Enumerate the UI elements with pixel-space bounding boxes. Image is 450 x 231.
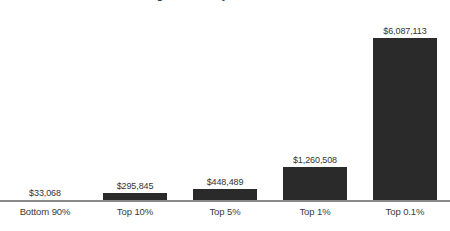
bar-value-label: $33,068: [29, 188, 61, 199]
bar-group-top-5: $448,489: [180, 0, 270, 201]
bar-value-label: $295,845: [117, 181, 154, 192]
bar-group-bottom-90: $33,068: [0, 0, 90, 201]
x-tick-label-top-1: Top 1%: [270, 203, 360, 223]
x-axis-tick-labels: Bottom 90% Top 10% Top 5% Top 1% Top 0.1…: [0, 203, 450, 223]
bar-rect[interactable]: [373, 38, 437, 201]
bar-group-top-1: $1,260,508: [270, 0, 360, 201]
bar-rect[interactable]: [283, 167, 347, 201]
x-axis-line: [0, 200, 450, 202]
x-tick-label-bottom-90: Bottom 90%: [0, 203, 90, 223]
bar-series: $33,068 $295,845 $448,489 $1,260,508 $6,…: [0, 0, 450, 201]
x-tick-label-top-10: Top 10%: [90, 203, 180, 223]
bar-value-label: $6,087,113: [383, 26, 426, 37]
x-tick-label-top-01: Top 0.1%: [360, 203, 450, 223]
x-tick-label-top-5: Top 5%: [180, 203, 270, 223]
bar-group-top-01: $6,087,113: [360, 0, 450, 201]
bar-chart: Average Income by Wealth Percentile $33,…: [0, 0, 450, 231]
plot-area: $33,068 $295,845 $448,489 $1,260,508 $6,…: [0, 0, 450, 201]
bar-group-top-10: $295,845: [90, 0, 180, 201]
bar-value-label: $1,260,508: [293, 155, 337, 166]
bar-value-label: $448,489: [207, 177, 244, 188]
